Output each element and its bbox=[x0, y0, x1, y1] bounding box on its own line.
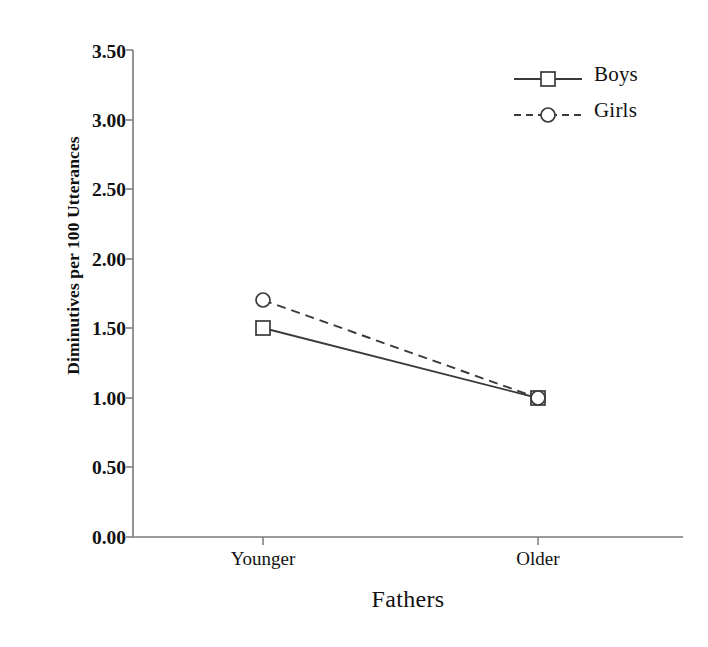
legend-swatch-girls bbox=[510, 104, 586, 126]
y-axis-ticks bbox=[126, 50, 133, 537]
data-point-girls-younger bbox=[256, 293, 270, 307]
chart-figure: Diminutives per 100 Utterances 3.50 3.00… bbox=[0, 0, 708, 647]
data-point-girls-older bbox=[531, 391, 545, 405]
series-line-boys bbox=[263, 328, 538, 398]
data-point-boys-younger bbox=[256, 321, 270, 335]
legend-label-girls: Girls bbox=[594, 98, 637, 123]
series-line-girls bbox=[263, 300, 538, 398]
legend-item-girls: Girls bbox=[510, 98, 690, 134]
legend-swatch-boys bbox=[510, 68, 586, 90]
chart-legend: Boys Girls bbox=[510, 62, 690, 134]
x-axis-ticks bbox=[263, 537, 538, 545]
legend-item-boys: Boys bbox=[510, 62, 690, 98]
legend-label-boys: Boys bbox=[594, 62, 638, 87]
